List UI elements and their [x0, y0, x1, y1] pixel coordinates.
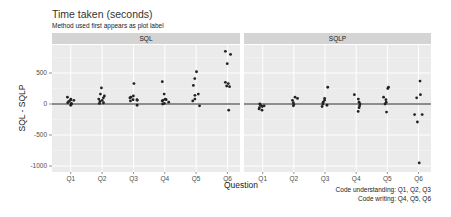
data-point	[261, 109, 264, 112]
data-point	[197, 93, 200, 96]
data-point	[386, 87, 389, 90]
data-point	[357, 110, 360, 113]
data-point	[419, 93, 422, 96]
data-point	[296, 97, 299, 100]
x-tick-label: Q4	[352, 175, 361, 183]
data-point	[357, 98, 360, 101]
data-point	[191, 100, 194, 103]
data-point	[102, 101, 105, 104]
x-tick-label: Q1	[258, 175, 267, 183]
data-point	[227, 82, 230, 85]
data-point	[294, 96, 297, 99]
data-point	[229, 53, 232, 56]
data-point	[326, 86, 329, 89]
data-point	[358, 106, 361, 109]
data-point	[165, 98, 168, 101]
data-point	[70, 103, 73, 106]
x-tick-label: Q3	[321, 175, 330, 183]
data-point	[97, 98, 100, 101]
facet-label-sql: SQL	[139, 35, 152, 43]
data-point	[133, 82, 136, 85]
x-tick-label: Q4	[160, 175, 169, 183]
data-point	[99, 93, 102, 96]
caption-line-1: Code understanding: Q1, Q2, Q3	[336, 186, 431, 193]
data-point	[167, 101, 170, 104]
data-point	[66, 96, 69, 99]
data-point	[421, 113, 424, 116]
data-point	[291, 99, 294, 102]
data-point	[136, 104, 139, 107]
data-point	[194, 94, 197, 97]
data-point	[384, 103, 387, 106]
data-point	[198, 104, 201, 107]
data-point	[292, 104, 295, 107]
data-point	[419, 80, 422, 83]
data-point	[192, 84, 195, 87]
x-tick-label: Q2	[98, 175, 107, 183]
data-point	[258, 108, 261, 111]
facet-label-sqlp: SQLP	[329, 35, 346, 43]
data-point	[161, 80, 164, 83]
data-point	[224, 50, 227, 53]
data-point	[226, 62, 229, 65]
data-point	[102, 96, 105, 99]
data-point	[382, 96, 385, 99]
data-point	[163, 93, 166, 96]
x-axis-title: Question	[224, 180, 258, 190]
data-point	[385, 111, 388, 114]
data-point	[193, 77, 196, 80]
data-point	[224, 81, 227, 84]
x-tick-label: Q3	[129, 175, 138, 183]
y-tick-label: 0	[43, 100, 47, 107]
data-point	[98, 102, 101, 105]
y-axis-title: SQL - SQLP	[17, 84, 27, 131]
data-point	[322, 103, 325, 106]
data-point	[69, 98, 72, 101]
y-tick-label: 500	[36, 69, 47, 76]
y-tick-label: -1000	[30, 162, 47, 169]
x-tick-label: Q6	[414, 175, 423, 183]
data-point	[321, 105, 324, 108]
data-point	[100, 86, 103, 89]
faceted-scatter-chart: SQLQ1Q2Q3Q4Q5Q6SQLPQ1Q2Q3Q4Q5Q65000-500-…	[0, 0, 451, 217]
x-tick-label: Q5	[383, 175, 392, 183]
y-tick-label: -500	[34, 131, 47, 138]
data-point	[385, 98, 388, 101]
data-point	[194, 98, 197, 101]
data-point	[413, 113, 416, 116]
data-point	[416, 121, 419, 124]
x-tick-label: Q5	[192, 175, 201, 183]
x-tick-label: Q2	[290, 175, 299, 183]
data-point	[195, 70, 198, 73]
data-point	[132, 95, 135, 98]
data-point	[128, 96, 131, 99]
data-point	[129, 100, 132, 103]
data-point	[228, 85, 231, 88]
x-tick-label: Q1	[66, 175, 75, 183]
data-point	[161, 100, 164, 103]
caption-line-2: Code writing: Q4, Q5, Q6	[358, 195, 431, 202]
data-point	[136, 99, 139, 102]
panel-background	[244, 45, 431, 172]
data-point	[326, 104, 329, 107]
panel-background	[52, 45, 240, 172]
data-point	[415, 96, 418, 99]
data-point	[132, 98, 135, 101]
data-point	[418, 162, 421, 165]
data-point	[353, 93, 356, 96]
data-point	[263, 104, 266, 107]
data-point	[225, 85, 228, 88]
data-point	[161, 103, 164, 106]
data-point	[227, 109, 230, 112]
data-point	[72, 99, 75, 102]
